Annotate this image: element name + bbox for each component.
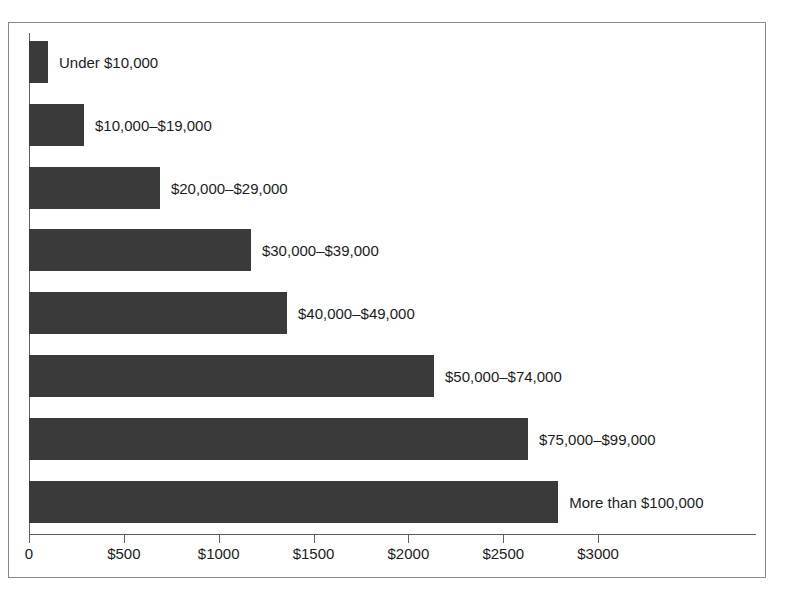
bar [29, 481, 558, 523]
bar-label: $75,000–$99,000 [528, 430, 656, 447]
x-axis-tick-label: $500 [107, 545, 140, 562]
x-axis-tick-label: $2000 [388, 545, 430, 562]
x-axis-tick-label: $1500 [293, 545, 335, 562]
x-axis-tick [503, 534, 504, 543]
bar-label: $30,000–$39,000 [251, 242, 379, 259]
x-axis-tick [314, 534, 315, 543]
bar-row: $50,000–$74,000 [9, 355, 767, 397]
bar [29, 292, 287, 334]
bar-label: $20,000–$29,000 [160, 179, 288, 196]
bar-row: $20,000–$29,000 [9, 167, 767, 209]
bar-row: $30,000–$39,000 [9, 229, 767, 271]
x-axis-line [29, 534, 756, 535]
bar-row: $10,000–$19,000 [9, 104, 767, 146]
bar [29, 104, 84, 146]
bar-row: Under $10,000 [9, 41, 767, 83]
bar-label: $40,000–$49,000 [287, 305, 415, 322]
bar-row: $40,000–$49,000 [9, 292, 767, 334]
bars-area: Under $10,000$10,000–$19,000$20,000–$29,… [9, 23, 767, 579]
bar [29, 229, 251, 271]
bar [29, 418, 528, 460]
bar-chart: Under $10,000$10,000–$19,000$20,000–$29,… [0, 0, 786, 594]
bar [29, 355, 434, 397]
x-axis-tick [408, 534, 409, 543]
x-axis-tick-label: $3000 [577, 545, 619, 562]
x-axis-tick [124, 534, 125, 543]
x-axis-tick-label: $1000 [198, 545, 240, 562]
x-axis-tick [29, 534, 30, 543]
bar [29, 167, 160, 209]
bar-label: Under $10,000 [48, 54, 158, 71]
bar [29, 41, 48, 83]
bar-row: More than $100,000 [9, 481, 767, 523]
bar-label: $10,000–$19,000 [84, 116, 212, 133]
bar-row: $75,000–$99,000 [9, 418, 767, 460]
plot-frame: Under $10,000$10,000–$19,000$20,000–$29,… [8, 22, 766, 578]
x-axis-tick [598, 534, 599, 543]
x-axis-tick-label: 0 [25, 545, 33, 562]
bar-label: More than $100,000 [558, 493, 703, 510]
x-axis-tick-label: $2500 [482, 545, 524, 562]
bar-label: $50,000–$74,000 [434, 368, 562, 385]
x-axis-tick [219, 534, 220, 543]
